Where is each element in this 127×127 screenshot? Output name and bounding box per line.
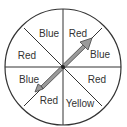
section-label: Red [40,95,58,106]
section-label: Red [69,28,87,39]
section-label: Blue [19,74,39,85]
spinner-diagram: Red Blue Red Yellow Red Blue Red Blue [0,0,127,127]
section-label: Blue [90,49,110,60]
section-label: Red [18,50,36,61]
section-label: Yellow [66,98,95,109]
section-label: Blue [39,28,59,39]
pivot-icon [61,65,65,69]
section-label: Red [88,74,106,85]
